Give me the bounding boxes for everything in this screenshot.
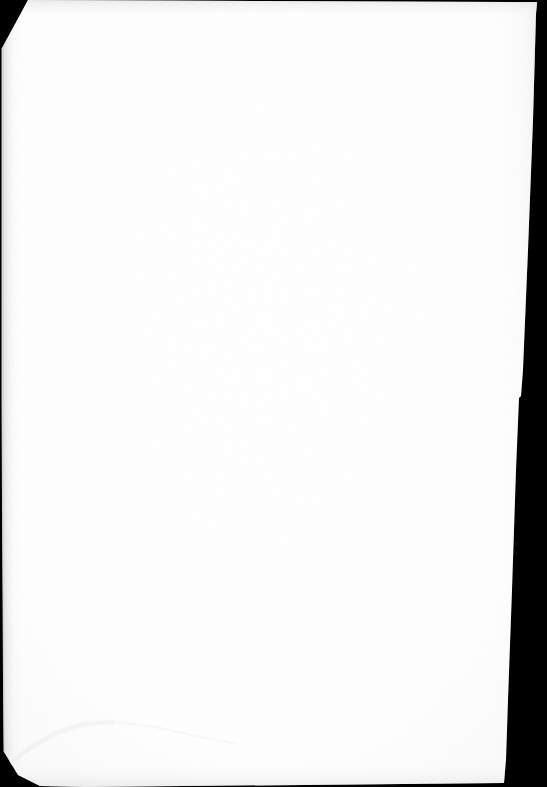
scan-viewport (0, 0, 547, 787)
bottom-edge-shading (0, 762, 547, 787)
top-edge-shading (0, 0, 547, 18)
page-content-area (40, 40, 490, 740)
